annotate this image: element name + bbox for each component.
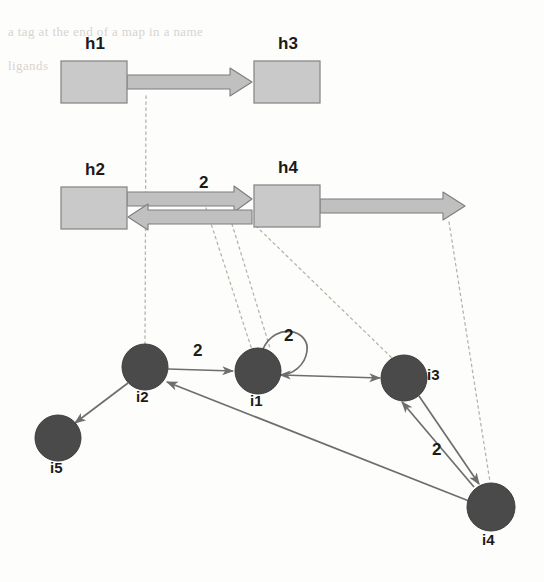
host-box-label-h3: h3 <box>278 34 298 54</box>
instance-nodes-group <box>35 344 515 531</box>
instance-node-i2[interactable] <box>122 344 168 390</box>
edge-i3-to-i4 <box>419 396 479 484</box>
block-arrow-h4-to-h2 <box>128 204 252 230</box>
instance-node-i4[interactable] <box>467 483 515 531</box>
instance-node-label-i5: i5 <box>50 459 63 476</box>
host-box-h4[interactable] <box>254 185 320 227</box>
host-box-label-h1: h1 <box>85 34 105 54</box>
diagram-canvas: a tag at the end of a map in a name liga… <box>0 0 544 582</box>
instance-node-label-i3: i3 <box>427 366 440 383</box>
instance-node-i3[interactable] <box>381 355 427 401</box>
mapping-line-h4-to-i3 <box>256 226 392 358</box>
instance-node-i1[interactable] <box>235 348 281 394</box>
mapping-line-h4-lower-to-i1 <box>232 224 270 348</box>
block-arrow-h1-to-h3 <box>127 68 252 96</box>
instance-node-label-i1: i1 <box>250 392 263 409</box>
instance-node-i5[interactable] <box>35 415 81 461</box>
mapping-line-h4out-to-i4 <box>449 222 490 482</box>
edge-i2-to-i1 <box>168 369 233 371</box>
host-box-h1[interactable] <box>61 61 127 103</box>
host-box-h2[interactable] <box>61 187 127 229</box>
host-box-label-h4: h4 <box>278 158 298 178</box>
instance-node-label-i2: i2 <box>136 388 149 405</box>
instance-edge-weight-i2-i1: 2 <box>193 341 202 361</box>
ghost-text-line-1: a tag at the end of a map in a name <box>8 24 203 40</box>
edge-i4-to-i2 <box>167 382 469 501</box>
host-edge-weight-h2-h4: 2 <box>199 173 208 193</box>
edge-i2-to-i5 <box>75 383 128 423</box>
instance-edge-weight-i3-i4: 2 <box>432 440 441 460</box>
edge-i1-to-i3 <box>281 375 380 378</box>
host-box-label-h2: h2 <box>85 160 105 180</box>
ghost-text-line-2: ligands <box>8 58 48 74</box>
mapping-line-h2h4-to-i1 <box>206 208 252 350</box>
host-box-h3[interactable] <box>254 61 320 103</box>
instance-edge-weight-i1-self: 2 <box>284 326 293 346</box>
block-arrow-h4-outgoing <box>320 192 465 220</box>
instance-node-label-i4: i4 <box>482 531 495 548</box>
diagram-svg <box>0 0 544 582</box>
